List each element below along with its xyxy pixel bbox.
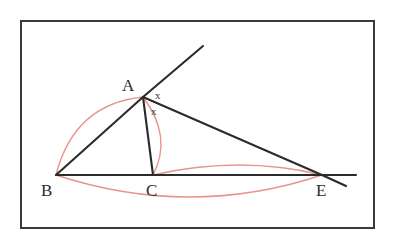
point-label-a: A [122, 76, 135, 95]
point-label-c: C [146, 181, 157, 200]
point-label-b: B [41, 181, 52, 200]
point-label-e: E [316, 181, 326, 200]
figure-background [0, 0, 398, 249]
angle-mark-x-upper: x [155, 89, 161, 101]
geometry-figure: A B C E x x [0, 0, 398, 249]
diagram-canvas: A B C E x x [0, 0, 398, 249]
angle-mark-x-lower: x [151, 105, 157, 117]
